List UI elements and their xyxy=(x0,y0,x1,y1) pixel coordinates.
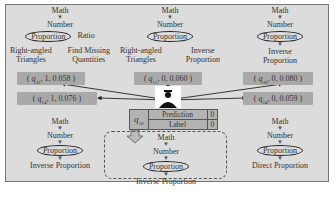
node-find-missing: Find Missing xyxy=(68,46,110,55)
score-box-mid-left: ( q14, 1, 0.076 ) xyxy=(17,92,97,105)
node-triangles: Triangles xyxy=(10,55,52,64)
node-right-angled: Right-angled xyxy=(120,46,162,55)
tree-bottom-right: Math ▼ Number ▼ Proportion ▼ Direct Prop… xyxy=(235,117,325,170)
node-proportion-highlight: Proportion xyxy=(25,31,71,42)
node-ratio: Ratio xyxy=(77,31,94,42)
tree-bottom-middle: Math ▼ Number ▼ Proportion ▼ Inverse Pro… xyxy=(116,133,216,186)
score-box-mid-right: ( q24, 0, 0.059 ) xyxy=(243,92,313,105)
node-proportion: Proportion xyxy=(186,55,220,64)
label-value: 0 xyxy=(207,120,218,130)
score-box-top-left: ( q31, 1, 0.058 ) xyxy=(17,72,85,85)
node-leaf: Inverse Proportion xyxy=(10,161,110,170)
tree-top-right: Math ▼ Number Proportion ▼ Inverse Propo… xyxy=(240,6,320,65)
node-number: Number xyxy=(10,20,110,29)
node-inverse: Inverse xyxy=(186,46,220,55)
node-triangles: Triangles xyxy=(120,55,162,64)
prediction-table: q10 Prediction 0 Label 0 xyxy=(129,109,218,130)
node-number: Number xyxy=(240,20,320,29)
node-number: Number xyxy=(120,20,220,29)
node-right-angled: Right-angled xyxy=(10,46,52,55)
node-leaf: Direct Proportion xyxy=(235,161,325,170)
tree-top-middle: Math ▼ Number Proportion Right-angledTri… xyxy=(120,6,220,64)
score-box-top-right: ( q30, 0, 0.080 ) xyxy=(243,72,313,85)
tree-bottom-left: Math ▼ Number ▼ Proportion ▼ Inverse Pro… xyxy=(10,117,110,170)
node-inverse: Inverse xyxy=(240,47,320,56)
score-box-top-middle: ( q11, 0, 0.060 ) xyxy=(134,72,202,85)
student-avatar-icon xyxy=(155,86,181,108)
label-label: Label xyxy=(148,120,207,130)
tree-top-left: Math ▼ Number Proportion Ratio Right-ang… xyxy=(10,6,110,64)
target-question: q10 xyxy=(130,110,149,130)
node-leaf: Inverse Proportion xyxy=(116,177,216,186)
prediction-value: 0 xyxy=(207,110,218,120)
node-proportion: Proportion xyxy=(240,56,320,65)
prediction-label: Prediction xyxy=(148,110,207,120)
node-quantities: Quantities xyxy=(68,55,110,64)
node-proportion-highlight: Proportion xyxy=(147,31,193,42)
